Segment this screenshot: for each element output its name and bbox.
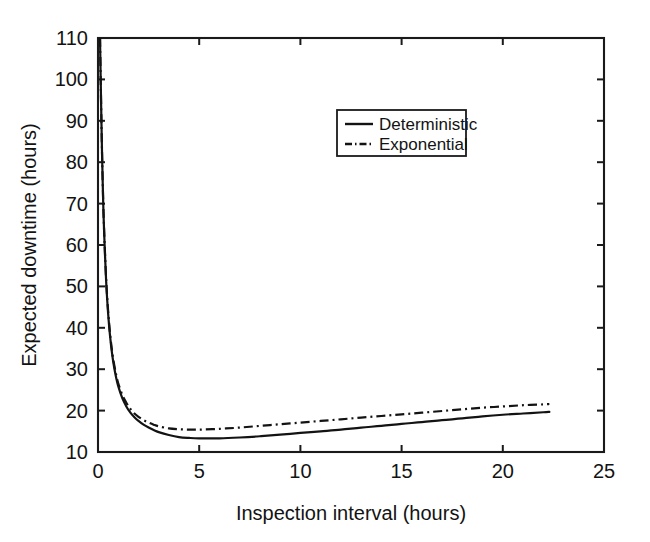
legend-label-deterministic: Deterministic	[379, 115, 478, 134]
x-tick-label: 15	[390, 460, 412, 482]
figure-page: 0510152025102030405060708090100110Determ…	[0, 0, 650, 542]
y-tick-label: 90	[66, 110, 88, 132]
y-tick-label: 70	[66, 193, 88, 215]
y-tick-label: 60	[66, 234, 88, 256]
y-tick-label: 10	[66, 441, 88, 463]
x-tick-label: 10	[289, 460, 311, 482]
x-tick-label: 5	[194, 460, 205, 482]
x-tick-label: 20	[492, 460, 514, 482]
x-axis-title: Inspection interval (hours)	[236, 502, 466, 524]
y-tick-label: 30	[66, 358, 88, 380]
y-tick-label: 20	[66, 400, 88, 422]
x-tick-label: 25	[593, 460, 615, 482]
y-tick-label: 80	[66, 151, 88, 173]
x-tick-label: 0	[92, 460, 103, 482]
legend-label-exponential: Exponential	[379, 135, 468, 154]
y-tick-label: 50	[66, 275, 88, 297]
y-tick-label: 40	[66, 317, 88, 339]
chart-figure: 0510152025102030405060708090100110Determ…	[0, 0, 650, 542]
y-axis-title: Expected downtime (hours)	[18, 123, 40, 366]
y-tick-label: 110	[56, 27, 88, 49]
y-tick-label: 100	[55, 68, 88, 90]
